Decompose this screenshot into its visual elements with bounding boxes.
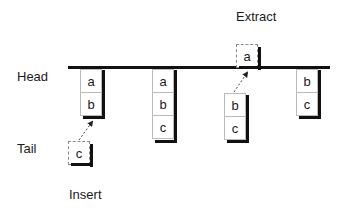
arrows	[0, 0, 341, 217]
insert-arrow	[79, 122, 92, 140]
extract-arrow	[234, 73, 247, 92]
